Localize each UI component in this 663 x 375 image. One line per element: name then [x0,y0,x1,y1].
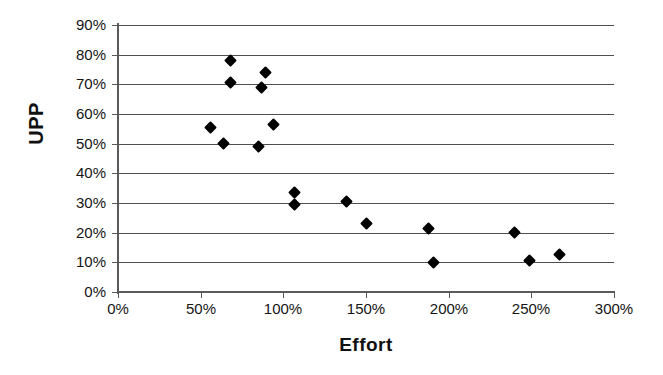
data-point-marker [224,76,237,89]
x-tick-label: 300% [579,300,649,317]
y-tick-label: 40% [48,164,106,181]
y-tick-label: 20% [48,224,106,241]
x-tick-mark [366,292,367,298]
y-tick-label: 0% [48,283,106,300]
data-point-marker [252,140,265,153]
data-point-marker [360,217,373,230]
data-point-marker [523,254,536,267]
data-point-marker [340,195,353,208]
x-tick-label: 150% [331,300,401,317]
data-point-marker [422,222,435,235]
x-tick-mark [531,292,532,298]
data-points-layer [118,25,614,292]
y-tick-label: 70% [48,75,106,92]
y-tick-label: 90% [48,16,106,33]
data-point-marker [553,249,566,262]
x-tick-label: 0% [83,300,153,317]
x-tick-mark [201,292,202,298]
x-tick-label: 100% [248,300,318,317]
y-axis-title: UPP [25,64,48,184]
data-point-marker [204,121,217,134]
y-tick-label: 30% [48,194,106,211]
data-point-marker [224,54,237,67]
x-tick-mark [118,292,119,298]
data-point-marker [289,186,302,199]
x-tick-label: 50% [166,300,236,317]
scatter-chart: UPP 0%10%20%30%40%50%60%70%80%90% 0%50%1… [0,0,663,375]
data-point-marker [289,198,302,211]
x-tick-label: 200% [414,300,484,317]
y-tick-label: 10% [48,253,106,270]
x-axis-title: Effort [118,334,614,356]
y-tick-label: 50% [48,135,106,152]
x-tick-mark [614,292,615,298]
data-point-marker [259,66,272,79]
data-point-marker [267,118,280,131]
data-point-marker [217,137,230,150]
x-tick-mark [449,292,450,298]
x-tick-label: 250% [496,300,566,317]
y-tick-label: 60% [48,105,106,122]
x-tick-mark [283,292,284,298]
data-point-marker [508,226,521,239]
y-tick-label: 80% [48,46,106,63]
data-point-marker [255,81,268,94]
data-point-marker [427,256,440,269]
